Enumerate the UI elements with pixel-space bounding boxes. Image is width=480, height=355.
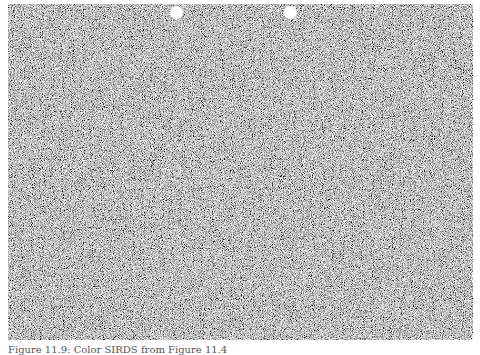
- page: Figure 11.9: Color SIRDS from Figure 11.…: [0, 0, 480, 355]
- random-dot-noise: [8, 4, 473, 340]
- figure-caption: Figure 11.9: Color SIRDS from Figure 11.…: [8, 343, 227, 355]
- alignment-dot-left: [170, 6, 183, 19]
- alignment-dot-right: [284, 6, 297, 19]
- stereogram-figure: [8, 4, 473, 340]
